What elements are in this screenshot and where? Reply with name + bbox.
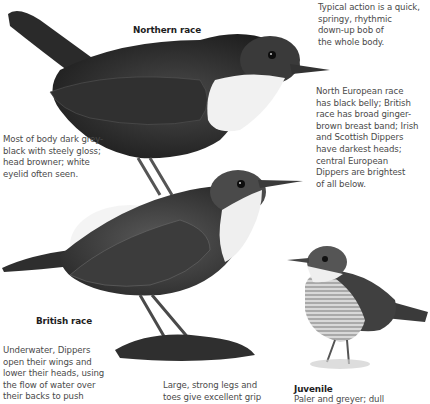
juvenile-label: Juvenile xyxy=(294,384,333,394)
legs-note: Large, strong legs and toes give excelle… xyxy=(163,380,261,403)
action-note: Typical action is a quick, springy, rhyt… xyxy=(318,2,420,48)
underwater-note: Underwater, Dippers open their wings and… xyxy=(3,345,104,403)
northern-race-label: Northern race xyxy=(133,25,201,35)
races-note: North European race has black belly; Bri… xyxy=(316,86,418,190)
british-race-label: British race xyxy=(36,316,92,326)
body-note: Most of body dark grey- black with steel… xyxy=(3,134,103,180)
juvenile-note: Paler and greyer; dull xyxy=(294,394,384,404)
juvenile-dipper-illustration xyxy=(285,240,430,370)
british-race-dipper-illustration xyxy=(0,150,310,370)
